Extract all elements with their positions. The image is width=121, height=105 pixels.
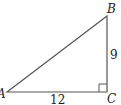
right-angle-marker [99, 84, 107, 92]
side-label-ac: 12 [50, 93, 65, 105]
side-label-bc: 9 [110, 48, 118, 62]
vertex-label-b: B [106, 2, 116, 16]
vertex-label-a: A [0, 87, 6, 101]
triangle-abc [7, 16, 107, 92]
triangle-diagram: A B C 9 12 [0, 0, 121, 105]
vertex-label-c: C [107, 92, 116, 105]
